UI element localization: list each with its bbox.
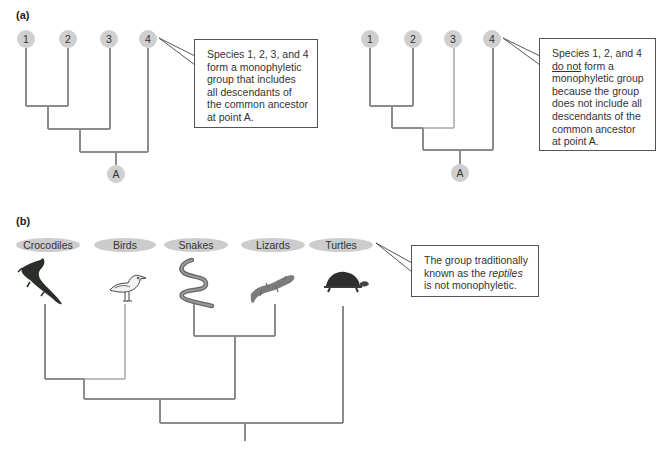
callout-text-underlined: do not: [552, 60, 581, 72]
taxon-label-birds: Birds: [113, 239, 137, 251]
callout-text-suffix: is not monophyletic.: [424, 279, 517, 291]
snake-icon: [182, 260, 212, 306]
callout-reptiles: The group traditionally known as the rep…: [411, 245, 539, 297]
bird-icon: [110, 275, 146, 301]
tree-b: [45, 304, 343, 441]
callout-not-monophyletic: Species 1, 2, and 4 do not form a monoph…: [539, 38, 656, 151]
species-label: 1: [367, 33, 373, 45]
species-label: 2: [65, 33, 71, 45]
species-label: 1: [23, 33, 29, 45]
callout-pointer-a-left: [159, 38, 195, 65]
species-label: 4: [489, 33, 495, 45]
callout-text-suffix: form a monophyletic group because the gr…: [552, 60, 644, 148]
turtle-icon: [324, 272, 369, 292]
callout-text: Species 1, 2, 3, and 4 form a monophylet…: [207, 48, 309, 123]
ancestor-label: A: [112, 168, 119, 180]
ancestor-label: A: [456, 167, 463, 179]
taxon-label-turtles: Turtles: [325, 239, 357, 251]
taxon-label-lizards: Lizards: [256, 239, 290, 251]
tree-a-right: [370, 48, 493, 164]
species-label: 2: [410, 33, 416, 45]
crocodile-icon: [18, 258, 62, 304]
taxon-ovals: Crocodiles Birds Snakes Lizards Turtles: [16, 238, 373, 252]
species-label: 4: [145, 33, 151, 45]
lizard-icon: [251, 275, 295, 303]
callout-text-prefix: Species 1, 2, and 4: [552, 47, 642, 59]
callout-monophyletic: Species 1, 2, 3, and 4 form a monophylet…: [194, 39, 318, 128]
taxon-label-crocodiles: Crocodiles: [23, 239, 73, 251]
callout-pointer-b: [376, 243, 412, 272]
species-label: 3: [106, 33, 112, 45]
species-label: 3: [450, 33, 456, 45]
tree-a-left: [26, 48, 148, 165]
callout-text-italic: reptiles: [489, 267, 523, 279]
taxon-label-snakes: Snakes: [178, 239, 213, 251]
callout-pointer-a-right: [503, 38, 540, 65]
